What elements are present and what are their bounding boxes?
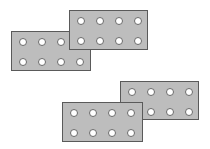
stud-icon [108,129,116,137]
stud-icon [127,109,135,117]
brick-bottom-left [62,102,143,142]
stud-icon [38,38,46,46]
stud-icon [96,17,104,25]
stud-icon [76,58,84,66]
stud-icon [38,58,46,66]
stud-icon [166,88,174,96]
stud-icon [89,129,97,137]
stud-icon [128,88,136,96]
stud-icon [115,17,123,25]
stud-icon [77,37,85,45]
stud-icon [115,37,123,45]
stud-icon [134,37,142,45]
stud-icon [89,109,97,117]
stud-icon [134,17,142,25]
stud-icon [77,17,85,25]
stud-icon [70,109,78,117]
stud-icon [19,58,27,66]
stud-icon [147,108,155,116]
stud-icon [147,88,155,96]
stud-icon [70,129,78,137]
stud-icon [185,108,193,116]
stud-icon [108,109,116,117]
stud-icon [166,108,174,116]
stud-icon [185,88,193,96]
stud-icon [57,38,65,46]
stud-icon [19,38,27,46]
stud-icon [96,37,104,45]
stud-icon [57,58,65,66]
stud-icon [127,129,135,137]
brick-top-right [69,10,148,50]
